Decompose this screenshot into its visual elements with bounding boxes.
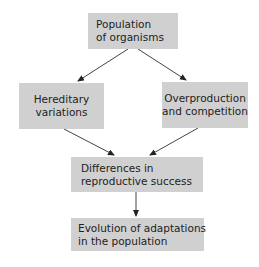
node-evolution-line-2: in the population [78,235,204,248]
node-population-line-2: of organisms [96,31,178,44]
arrow-population-to-hereditary [78,49,128,81]
node-population-line-1: Population [96,18,178,31]
node-overproduction-line-2: and competition [162,105,248,118]
node-hereditary-line-1: Hereditary [19,93,104,106]
node-differences-line-2: reproductive success [81,175,203,188]
node-differences-line-1: Differences in [81,162,203,175]
node-evolution-adaptations: Evolution of adaptations in the populati… [71,218,204,251]
node-differences-reproductive-success: Differences in reproductive success [71,157,203,192]
arrow-population-to-overproduction [138,49,186,80]
arrow-overproduction-to-differences [150,128,198,155]
arrow-hereditary-to-differences [64,129,114,155]
node-hereditary-line-2: variations [19,106,104,119]
node-population: Population of organisms [88,13,178,49]
node-overproduction-line-1: Overproduction [162,92,248,105]
node-hereditary-variations: Hereditary variations [19,83,104,129]
node-evolution-line-1: Evolution of adaptations [78,222,204,235]
node-overproduction-competition: Overproduction and competition [162,82,248,128]
